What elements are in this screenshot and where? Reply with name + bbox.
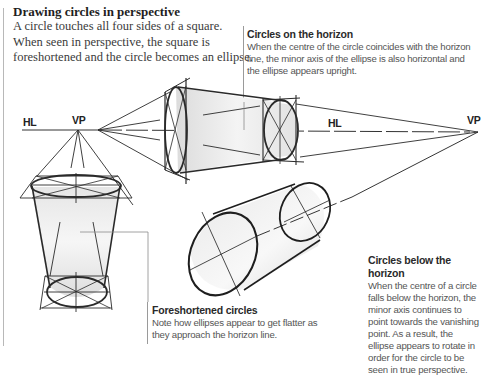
caption-circles-below-horizon: Circles below the horizon When the centr… xyxy=(368,254,480,376)
label-vp-left: VP xyxy=(72,114,85,126)
caption-below-body: When the centre of a circle falls below … xyxy=(368,280,480,376)
caption-below-title: Circles below the horizon xyxy=(368,254,480,280)
caption-foreshortened-circles: Foreshortened circles Note how ellipses … xyxy=(152,304,332,341)
caption-foreshortened-body: Note how ellipses appear to get flatter … xyxy=(152,317,332,341)
foreshortened-cup xyxy=(20,130,133,312)
horizon-cylinder xyxy=(98,78,478,184)
caption-horizon-title: Circles on the horizon xyxy=(247,28,477,41)
caption-circles-on-horizon: Circles on the horizon When the centre o… xyxy=(247,28,477,77)
caption-foreshortened-title: Foreshortened circles xyxy=(152,304,332,317)
label-hl-right: HL xyxy=(328,117,341,129)
caption-horizon-body: When the centre of the circle coincides … xyxy=(247,41,477,77)
label-hl-left: HL xyxy=(23,116,36,128)
label-vp-right: VP xyxy=(467,114,480,126)
